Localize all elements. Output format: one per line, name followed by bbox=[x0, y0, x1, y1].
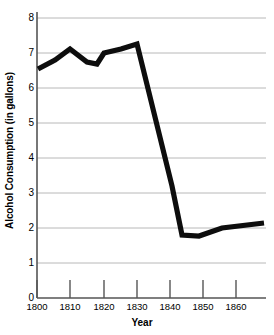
y-tick-8: 8 bbox=[20, 13, 34, 23]
x-tick-1840: 1840 bbox=[153, 302, 187, 312]
plot-area bbox=[0, 0, 274, 335]
x-tick-1850: 1850 bbox=[186, 302, 220, 312]
y-tick-6: 6 bbox=[20, 83, 34, 93]
y-tick-7: 7 bbox=[20, 48, 34, 58]
x-axis-title: Year bbox=[37, 317, 247, 328]
x-tick-1830: 1830 bbox=[120, 302, 154, 312]
x-axis-ticks bbox=[37, 280, 236, 298]
x-tick-1810: 1810 bbox=[53, 302, 87, 312]
y-tick-4: 4 bbox=[20, 153, 34, 163]
y-tick-1: 1 bbox=[20, 258, 34, 268]
x-tick-1800: 1800 bbox=[20, 302, 54, 312]
axis-lines bbox=[37, 12, 266, 298]
y-tick-5: 5 bbox=[20, 118, 34, 128]
x-tick-1860: 1860 bbox=[219, 302, 253, 312]
y-tick-2: 2 bbox=[20, 223, 34, 233]
y-tick-3: 3 bbox=[20, 188, 34, 198]
chart-figure: Alcohol Consumption (in gallons) bbox=[0, 0, 274, 335]
data-line-alcohol-consumption bbox=[38, 44, 264, 236]
x-tick-1820: 1820 bbox=[87, 302, 121, 312]
